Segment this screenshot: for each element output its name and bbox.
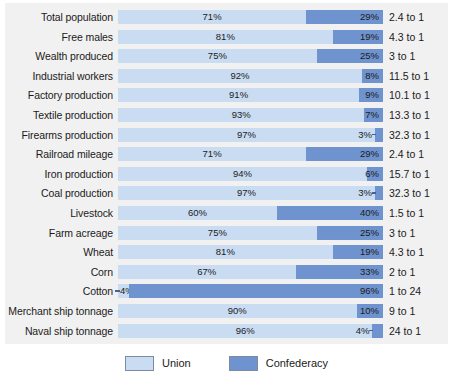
ratio-label: 2.4 to 1 xyxy=(389,9,424,26)
union-segment: 97% xyxy=(118,186,375,200)
ratio-label: 4.3 to 1 xyxy=(389,29,424,46)
confederacy-value-label: 6% xyxy=(365,167,379,181)
category-label: Farm acreage xyxy=(0,225,113,242)
category-label: Free males xyxy=(0,29,113,46)
bar-row: Firearms production97%3%32.3 to 1 xyxy=(0,127,453,144)
stacked-bar: 94%6% xyxy=(118,167,383,181)
ratio-label: 13.3 to 1 xyxy=(389,107,430,124)
union-segment: 91% xyxy=(118,88,359,102)
union-segment: 93% xyxy=(118,108,364,122)
union-value-label: 97% xyxy=(118,128,375,142)
confederacy-segment: 19% xyxy=(333,30,383,44)
category-label: Textile production xyxy=(0,107,113,124)
category-label: Wealth produced xyxy=(0,48,113,65)
confederacy-segment: 19% xyxy=(333,245,383,259)
union-segment: 96% xyxy=(118,324,372,338)
confederacy-segment: 10% xyxy=(357,304,384,318)
bar-row: Railroad mileage71%29%2.4 to 1 xyxy=(0,146,453,163)
category-label: Naval ship tonnage xyxy=(0,323,113,340)
union-segment: 75% xyxy=(118,49,317,63)
category-label: Merchant ship tonnage xyxy=(0,303,113,320)
bar-row: Factory production91%9%10.1 to 1 xyxy=(0,87,453,104)
union-value-label: 60% xyxy=(118,206,277,220)
union-segment: 92% xyxy=(118,69,362,83)
union-value-label: 81% xyxy=(118,30,333,44)
bar-rows-container: Total population71%29%2.4 to 1Free males… xyxy=(0,0,453,344)
confederacy-value-label: 3% xyxy=(358,186,372,200)
bar-row: Wealth produced75%25%3 to 1 xyxy=(0,48,453,65)
union-value-label: 71% xyxy=(118,147,306,161)
ratio-label: 32.3 to 1 xyxy=(389,127,430,144)
bar-row: Industrial workers92%8%11.5 to 1 xyxy=(0,68,453,85)
confederacy-value-label: 4% xyxy=(356,324,370,338)
confederacy-segment: 33% xyxy=(296,265,383,279)
ratio-label: 24 to 1 xyxy=(389,323,421,340)
union-value-label: 94% xyxy=(118,167,367,181)
confederacy-segment: 3% xyxy=(375,186,383,200)
bar-row: Free males81%19%4.3 to 1 xyxy=(0,29,453,46)
union-swatch-icon xyxy=(125,356,154,371)
legend-label-confederacy: Confederacy xyxy=(266,357,328,369)
confederacy-value-label: 25% xyxy=(360,226,379,240)
stacked-bar: 91%9% xyxy=(118,88,383,102)
legend-label-union: Union xyxy=(162,357,191,369)
stacked-bar: 71%29% xyxy=(118,10,383,24)
category-label: Factory production xyxy=(0,87,113,104)
confederacy-value-label: 25% xyxy=(360,49,379,63)
confederacy-segment: 9% xyxy=(359,88,383,102)
confederacy-value-label: 9% xyxy=(365,88,379,102)
union-segment: 67% xyxy=(118,265,296,279)
union-segment: 60% xyxy=(118,206,277,220)
confederacy-value-label: 10% xyxy=(360,304,379,318)
union-value-label: 81% xyxy=(118,245,333,259)
confederacy-value-label: 29% xyxy=(360,10,379,24)
bar-row: Wheat81%19%4.3 to 1 xyxy=(0,244,453,261)
bar-row: Coal production97%3%32.3 to 1 xyxy=(0,185,453,202)
confederacy-segment: 4% xyxy=(372,324,383,338)
confederacy-value-label: 19% xyxy=(360,245,379,259)
union-segment: 97% xyxy=(118,128,375,142)
category-label: Coal production xyxy=(0,185,113,202)
category-label: Livestock xyxy=(0,205,113,222)
union-segment: 4% xyxy=(118,284,129,298)
stacked-bar: 4%96% xyxy=(118,284,383,298)
confederacy-value-label: 33% xyxy=(360,265,379,279)
ratio-label: 1 to 24 xyxy=(389,283,421,300)
ratio-label: 3 to 1 xyxy=(389,48,415,65)
stacked-bar: 93%7% xyxy=(118,108,383,122)
confederacy-segment: 25% xyxy=(317,49,383,63)
confederacy-segment: 25% xyxy=(317,226,383,240)
stacked-bar: 75%25% xyxy=(118,49,383,63)
ratio-label: 2.4 to 1 xyxy=(389,146,424,163)
bar-row: Cotton4%96%1 to 24 xyxy=(0,283,453,300)
ratio-label: 11.5 to 1 xyxy=(389,68,429,85)
union-segment: 94% xyxy=(118,167,367,181)
confederacy-segment: 6% xyxy=(367,167,383,181)
category-label: Wheat xyxy=(0,244,113,261)
union-value-label: 92% xyxy=(118,69,362,83)
ratio-label: 15.7 to 1 xyxy=(389,166,430,183)
ratio-label: 3 to 1 xyxy=(389,225,415,242)
stacked-bar: 81%19% xyxy=(118,30,383,44)
union-segment: 81% xyxy=(118,245,333,259)
union-segment: 75% xyxy=(118,226,317,240)
ratio-label: 1.5 to 1 xyxy=(389,205,424,222)
bar-row: Textile production93%7%13.3 to 1 xyxy=(0,107,453,124)
union-segment: 71% xyxy=(118,147,306,161)
resources-of-union-and-confederacy-chart: Total population71%29%2.4 to 1Free males… xyxy=(0,0,453,380)
union-value-label: 75% xyxy=(118,226,317,240)
category-label: Industrial workers xyxy=(0,68,113,85)
union-value-label: 97% xyxy=(118,186,375,200)
category-label: Iron production xyxy=(0,166,113,183)
ratio-label: 32.3 to 1 xyxy=(389,185,430,202)
confederacy-value-label: 3% xyxy=(358,128,372,142)
union-segment: 81% xyxy=(118,30,333,44)
confederacy-segment: 3% xyxy=(375,128,383,142)
confederacy-segment: 29% xyxy=(306,147,383,161)
stacked-bar: 96%4% xyxy=(118,324,383,338)
confederacy-segment: 96% xyxy=(129,284,383,298)
union-value-label: 67% xyxy=(118,265,296,279)
union-value-label: 96% xyxy=(118,324,372,338)
union-value-label: 75% xyxy=(118,49,317,63)
legend-entry-confederacy: Confederacy xyxy=(229,356,328,371)
